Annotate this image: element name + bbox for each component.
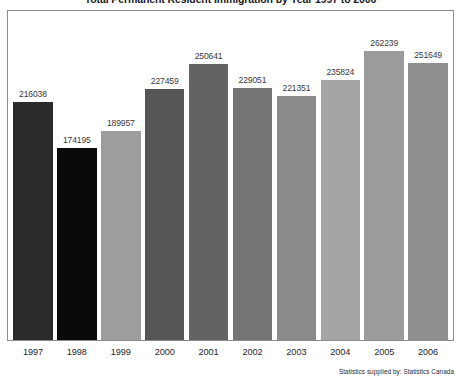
- chart-title: Total Permanent Resident Immigration by …: [0, 0, 461, 5]
- bar-value-label: 250641: [195, 51, 223, 61]
- bar-slot: 227459: [145, 11, 185, 340]
- bar-2001: [189, 64, 229, 340]
- bar-2005: [364, 51, 404, 340]
- bar-value-label: 216038: [19, 89, 47, 99]
- bar-2000: [145, 89, 185, 340]
- bars-container: 2160381741951899572274592506412290512213…: [8, 11, 453, 340]
- bar-value-label: 235824: [326, 67, 354, 77]
- x-tick-2001: 2001: [189, 347, 229, 357]
- bar-slot: 174195: [57, 11, 97, 340]
- bar-2003: [277, 96, 317, 340]
- x-tick-2002: 2002: [233, 347, 273, 357]
- x-tick-2000: 2000: [145, 347, 185, 357]
- bar-value-label: 221351: [283, 83, 311, 93]
- x-tick-2004: 2004: [321, 347, 361, 357]
- bar-chart: Total Permanent Resident Immigration by …: [0, 0, 461, 381]
- bar-value-label: 227459: [151, 76, 179, 86]
- bar-1999: [101, 131, 141, 340]
- x-tick-1999: 1999: [101, 347, 141, 357]
- footnote-source: Statistics supplied by: Statistics Canad…: [339, 368, 454, 375]
- bar-1997: [13, 102, 53, 340]
- bar-slot: 251649: [408, 11, 448, 340]
- bar-2004: [321, 80, 361, 340]
- x-tick-2005: 2005: [364, 347, 404, 357]
- bar-slot: 229051: [233, 11, 273, 340]
- bar-slot: 189957: [101, 11, 141, 340]
- bar-value-label: 229051: [239, 75, 267, 85]
- x-axis-labels: 1997199819992000200120022003200420052006: [8, 347, 453, 357]
- bar-value-label: 174195: [63, 135, 91, 145]
- bar-1998: [57, 148, 97, 340]
- x-tick-2006: 2006: [408, 347, 448, 357]
- bar-2002: [233, 88, 273, 340]
- x-tick-1997: 1997: [13, 347, 53, 357]
- bar-slot: 235824: [321, 11, 361, 340]
- bar-slot: 262239: [364, 11, 404, 340]
- bar-2006: [408, 63, 448, 340]
- bar-slot: 250641: [189, 11, 229, 340]
- bar-slot: 216038: [13, 11, 53, 340]
- x-tick-1998: 1998: [57, 347, 97, 357]
- bar-value-label: 189957: [107, 118, 135, 128]
- bar-value-label: 262239: [370, 38, 398, 48]
- bar-value-label: 251649: [414, 50, 442, 60]
- bar-slot: 221351: [277, 11, 317, 340]
- x-tick-2003: 2003: [277, 347, 317, 357]
